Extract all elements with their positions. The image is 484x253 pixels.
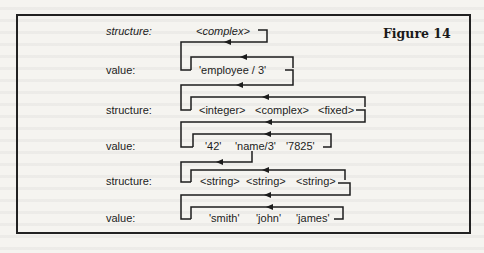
connector-lines bbox=[0, 0, 484, 253]
arrow-left-icon bbox=[224, 39, 231, 45]
connector-complex-to-employee bbox=[181, 30, 267, 70]
bracket-employee bbox=[191, 57, 293, 70]
connector-strings-to-values bbox=[181, 183, 350, 219]
arrow-left-icon bbox=[262, 94, 269, 100]
bracket-structure-2 bbox=[191, 97, 365, 110]
bracket-value-3 bbox=[191, 207, 343, 219]
arrow-left-icon bbox=[262, 167, 269, 173]
arrow-left-icon bbox=[264, 131, 271, 137]
figure-canvas: Figure 14 structure: value: structure: v… bbox=[0, 0, 484, 253]
connector-fixed-to-values bbox=[181, 110, 365, 147]
arrow-left-icon bbox=[266, 204, 273, 210]
arrow-left-icon bbox=[236, 82, 243, 88]
bracket-value-2 bbox=[193, 134, 331, 147]
arrow-left-icon bbox=[264, 192, 271, 198]
arrow-left-icon bbox=[265, 119, 272, 125]
arrow-left-icon bbox=[240, 54, 247, 60]
connector-employee-to-structure bbox=[181, 70, 293, 110]
arrow-left-icon bbox=[216, 159, 223, 165]
